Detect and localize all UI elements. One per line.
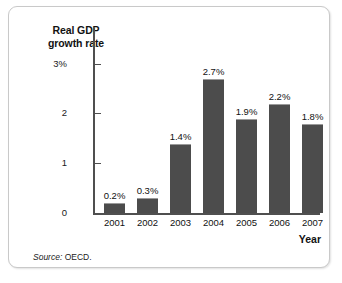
y-axis-title-line-2: growth rate bbox=[33, 37, 119, 50]
y-tick-label-0: 0 bbox=[27, 207, 67, 218]
bar-value-2007: 1.8% bbox=[292, 111, 333, 122]
x-tick-label-2007: 2007 bbox=[292, 217, 333, 228]
bar-2001 bbox=[104, 203, 125, 213]
bar-value-2004: 2.7% bbox=[193, 66, 234, 77]
y-tick-label-3: 3% bbox=[27, 58, 67, 69]
x-axis-line bbox=[93, 213, 320, 215]
y-axis-title: Real GDP growth rate bbox=[33, 24, 119, 49]
bar-2007 bbox=[302, 124, 323, 213]
x-axis-caption: Year bbox=[249, 233, 321, 245]
figure-frame: Real GDP growth rate 3% 2 1 0 0.2% 0.3% … bbox=[8, 6, 330, 268]
source-label: Source: bbox=[33, 252, 62, 262]
bar-value-2003: 1.4% bbox=[160, 131, 201, 142]
bar-2006 bbox=[269, 104, 290, 213]
y-tick-mark-1 bbox=[94, 163, 101, 164]
y-tick-mark-3 bbox=[94, 64, 101, 65]
bar-2002 bbox=[137, 198, 158, 213]
source-value: OECD. bbox=[65, 252, 92, 262]
y-tick-mark-2 bbox=[94, 113, 101, 114]
y-tick-label-1: 1 bbox=[27, 157, 67, 168]
bar-value-2002: 0.3% bbox=[127, 185, 168, 196]
y-axis-line bbox=[93, 27, 95, 214]
y-axis-title-line-1: Real GDP bbox=[33, 24, 119, 37]
bar-value-2005: 1.9% bbox=[226, 106, 267, 117]
bar-2005 bbox=[236, 119, 257, 213]
bar-value-2006: 2.2% bbox=[259, 91, 300, 102]
gdp-growth-figure: Real GDP growth rate 3% 2 1 0 0.2% 0.3% … bbox=[0, 0, 342, 283]
bar-2003 bbox=[170, 144, 191, 214]
bar-2004 bbox=[203, 79, 224, 213]
y-tick-label-2: 2 bbox=[27, 107, 67, 118]
source-note: Source: OECD. bbox=[33, 252, 92, 262]
